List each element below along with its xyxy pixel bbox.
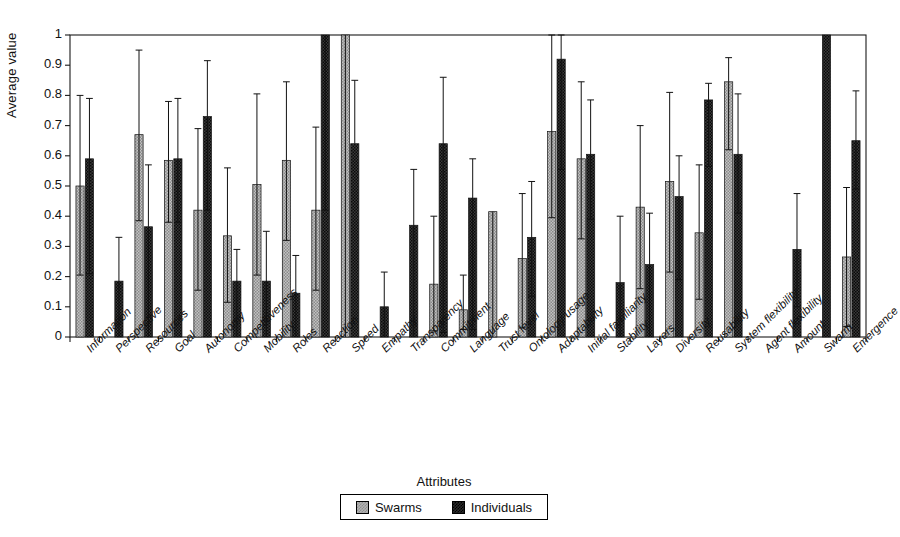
chart-legend: Swarms Individuals: [340, 494, 548, 520]
legend-swatch-icon-individuals: [452, 501, 465, 514]
y-tick-label: 0.5: [22, 177, 62, 192]
legend-swatch-icon-swarms: [356, 501, 369, 514]
y-tick-label: 0.4: [22, 207, 62, 222]
legend-item-swarms: Swarms: [356, 500, 422, 515]
y-tick-label: 0.8: [22, 86, 62, 101]
legend-label-individuals: Individuals: [471, 500, 532, 515]
y-tick-label: 0.1: [22, 298, 62, 313]
legend-item-individuals: Individuals: [452, 500, 532, 515]
y-tick-label: 0.3: [22, 237, 62, 252]
y-tick-label: 0.2: [22, 268, 62, 283]
y-tick-label: 0.6: [22, 147, 62, 162]
y-tick-label: 1: [22, 26, 62, 41]
x-axis-title: Attributes: [0, 474, 888, 489]
y-tick-label: 0.7: [22, 117, 62, 132]
y-tick-label: 0: [22, 328, 62, 343]
y-tick-label: 0.9: [22, 56, 62, 71]
legend-label-swarms: Swarms: [375, 500, 422, 515]
